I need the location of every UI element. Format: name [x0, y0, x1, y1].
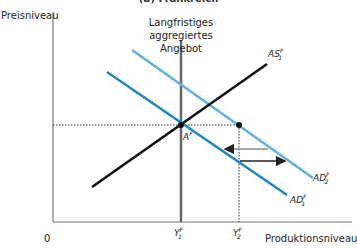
origin-label: 0 — [44, 233, 50, 244]
ad2-label-sup: F — [326, 171, 329, 178]
ad2-label: ADF2 — [313, 171, 328, 185]
x-tick-y2: YF2 — [233, 226, 241, 240]
as-label-sub: 1 — [278, 54, 282, 61]
y-axis-label: Preisniveau — [1, 10, 59, 21]
ad1-label-sub: 1 — [302, 200, 306, 207]
point-b — [236, 122, 242, 128]
ad1-label: ADF1 — [290, 193, 305, 207]
lras-label: Langfristiges aggregiertes Angebot — [131, 16, 231, 55]
as-label: ASF1 — [268, 47, 282, 61]
chart-title: (b) Frankreich — [0, 0, 357, 4]
ad2-curve — [132, 50, 313, 178]
point-a-sup: F — [189, 130, 192, 137]
x-tick-y1-sub: 1 — [178, 233, 182, 240]
ad1-curve — [107, 72, 287, 195]
point-a — [178, 122, 184, 128]
ad1-label-sup: F — [303, 193, 306, 200]
x-axis-label: Produktionsniveau — [265, 233, 357, 244]
ad2-label-sub: 2 — [325, 178, 329, 185]
x-tick-y2-sub: 2 — [237, 233, 241, 240]
diagram: (b) Frankreich Preisniveau Produktionsni… — [0, 0, 357, 249]
x-tick-y2-sup: F — [239, 226, 242, 233]
point-a-label: AF — [183, 130, 193, 142]
as-label-sup: F — [280, 47, 283, 54]
x-tick-y1-sup: F — [180, 226, 183, 233]
x-tick-y1: YF1 — [174, 226, 182, 240]
